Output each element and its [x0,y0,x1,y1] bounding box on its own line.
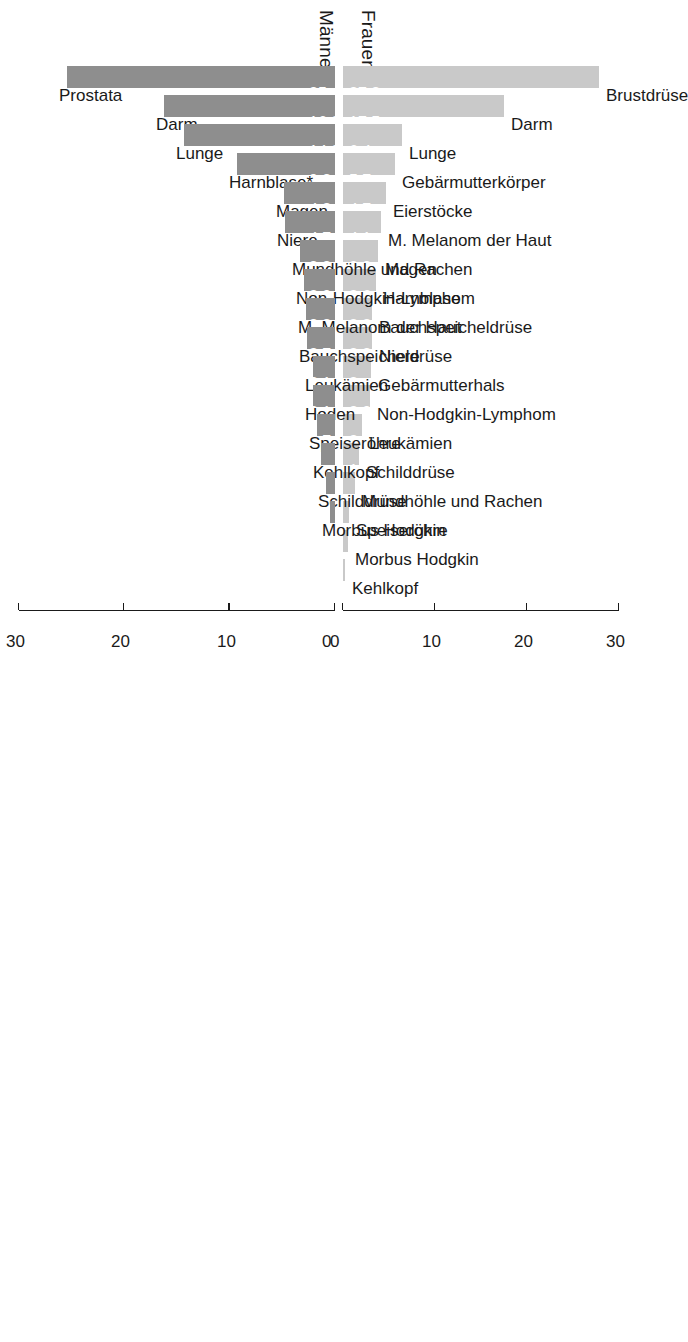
axis-tick-label: 0 [322,632,331,652]
axis-tick [526,603,527,610]
axis-tick [618,603,619,610]
axis-tick [18,603,19,610]
bar-label-women: Eierstöcke [393,202,472,222]
bar-women [343,66,599,88]
bar-label-men: Prostata [59,86,122,106]
bar-label-women: Gebärmutterkörper [402,173,546,193]
bar-label-women: Gebärmutterhals [378,376,505,396]
axis-tick [228,603,229,610]
axis-tick-label: 20 [111,632,130,652]
bar-label-women: Kehlkopf [352,579,418,599]
bar-label-women: Darm [511,115,553,135]
men-panel: 25,4Prostata16,2Darm14,3Lunge9,3Harnblas… [0,0,335,1342]
axis-tick [334,603,335,610]
axis-tick-label: 10 [217,632,236,652]
axis-tick-label: 10 [422,632,441,652]
bar-men [326,472,335,494]
bar-label-women: Lunge [409,144,456,164]
bar-men [67,66,335,88]
bar-label-men: Morbus Hodgkin [322,521,446,541]
bar-label-men: Kehlkopf [313,463,379,483]
women-panel: 27,8Brustdrüse17,5Darm6,4Lunge5,7Gebärmu… [343,0,637,1342]
bar-label-men: Lunge [176,144,223,164]
axis-line [343,610,619,611]
bar-women [343,559,345,581]
bar-label-women: Brustdrüse [606,86,688,106]
axis-tick [123,603,124,610]
axis-tick [342,603,343,610]
axis-tick-label: 30 [6,632,25,652]
axis-tick [434,603,435,610]
bar-label-women: M. Melanom der Haut [388,231,551,251]
bar-label-women: Morbus Hodgkin [355,550,479,570]
axis-tick-label: 20 [514,632,533,652]
bar-men [330,501,335,523]
axis-tick-label: 30 [606,632,625,652]
bar-men [321,443,335,465]
axis-line [19,610,335,611]
bar-label-women: Non-Hodgkin-Lymphom [377,405,556,425]
